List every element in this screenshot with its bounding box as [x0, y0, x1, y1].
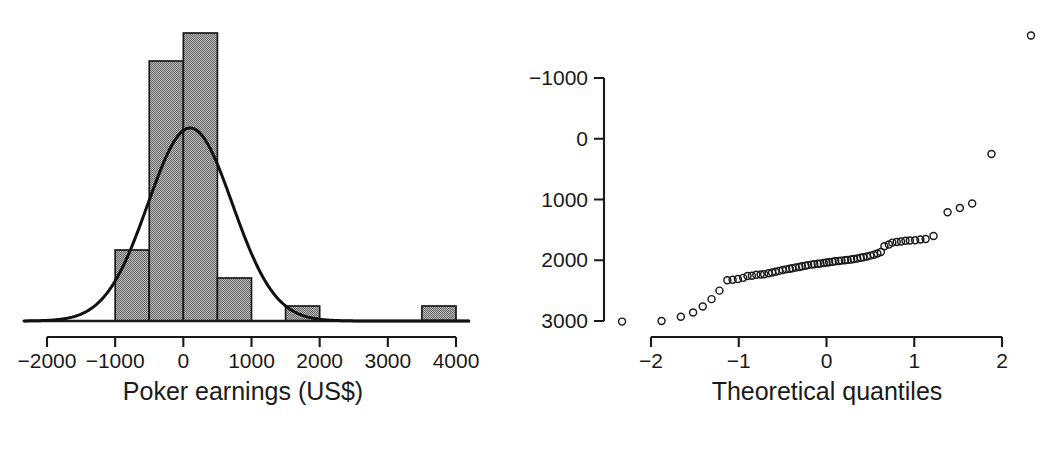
qq-data-points [619, 32, 1035, 325]
qq-point [708, 296, 715, 303]
qq-y-tick-label: 1000 [541, 188, 588, 211]
histogram-bars [115, 33, 456, 321]
figure-container: −2000−100001000200030004000 Poker earnin… [0, 0, 1054, 452]
qq-y-tick-label: 0 [576, 127, 588, 150]
histogram-bar [183, 33, 217, 321]
qq-x-tick-label: 2 [996, 349, 1008, 372]
qq-x-tick-labels: −2−1012 [639, 349, 1008, 372]
qq-y-axis [594, 78, 604, 321]
qq-point [619, 318, 626, 325]
histogram-x-tick-labels: −2000−100001000200030004000 [18, 349, 480, 372]
qq-point [658, 318, 665, 325]
qq-y-tick-label: 2000 [541, 248, 588, 271]
histogram-panel: −2000−100001000200030004000 Poker earnin… [0, 0, 527, 452]
qq-point [677, 313, 684, 320]
histogram-bar [149, 61, 183, 321]
qq-y-tick-label: 3000 [541, 309, 588, 332]
qq-x-tick-label: −2 [639, 349, 663, 372]
histogram-x-tick-label: 4000 [433, 349, 480, 372]
qq-y-tick-labels: −10000100020003000 [529, 66, 588, 332]
qq-plot-svg: −10000100020003000 −2−1012 Theoretical q… [527, 0, 1054, 452]
histogram-x-tick-label: 1000 [228, 349, 275, 372]
histogram-x-tick-label: −2000 [18, 349, 77, 372]
qq-point [881, 243, 888, 250]
qq-x-tick-label: 0 [821, 349, 833, 372]
qq-point [690, 309, 697, 316]
qq-point [699, 303, 706, 310]
histogram-bar [217, 278, 251, 321]
qq-point [988, 150, 995, 157]
histogram-x-tick-label: 0 [177, 349, 189, 372]
histogram-bar [422, 306, 456, 321]
qq-point [930, 232, 937, 239]
qq-x-tick-label: −1 [727, 349, 751, 372]
histogram-x-axis-title: Poker earnings (US$) [123, 377, 363, 405]
histogram-x-tick-label: 2000 [296, 349, 343, 372]
qq-plot-panel: −10000100020003000 −2−1012 Theoretical q… [527, 0, 1054, 452]
histogram-svg: −2000−100001000200030004000 Poker earnin… [0, 0, 527, 452]
histogram-bar [115, 250, 149, 321]
qq-point [1027, 32, 1034, 39]
qq-point [969, 200, 976, 207]
qq-x-axis [651, 337, 1002, 347]
qq-point [944, 209, 951, 216]
qq-point [956, 205, 963, 212]
histogram-x-axis [47, 337, 456, 347]
qq-x-axis-title: Theoretical quantiles [712, 377, 943, 405]
histogram-x-tick-label: 3000 [364, 349, 411, 372]
qq-x-tick-label: 1 [908, 349, 920, 372]
histogram-x-tick-label: −1000 [86, 349, 145, 372]
qq-y-tick-label: −1000 [529, 66, 588, 89]
qq-point [716, 287, 723, 294]
